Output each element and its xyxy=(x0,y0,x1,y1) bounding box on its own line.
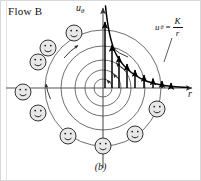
formula-fraction: K r xyxy=(173,17,183,38)
formula-numerator: K xyxy=(173,17,183,27)
particle-marker xyxy=(30,105,46,121)
velocity-formula-annotation: uθ = K r xyxy=(155,17,183,38)
particle-marker xyxy=(40,40,56,56)
particle-marker xyxy=(149,101,165,117)
formula-lhs-symbol: u xyxy=(155,23,160,32)
particle-marker xyxy=(127,126,143,142)
x-axis-label-symbol: r xyxy=(188,88,192,99)
particle-marker xyxy=(15,84,31,100)
particle-marker xyxy=(60,128,76,144)
particle-marker xyxy=(30,54,46,70)
figure-caption: (b) xyxy=(0,162,201,172)
figure-container: Flow B uθ r uθ = K r (b) xyxy=(0,0,201,181)
formula-lhs-subscript: θ xyxy=(161,24,164,30)
page-title: Flow B xyxy=(8,6,43,17)
formula-denominator: r xyxy=(174,28,182,38)
particle-marker xyxy=(66,25,82,41)
x-axis-label: r xyxy=(188,89,192,99)
formula-equals-sign: = xyxy=(165,23,172,32)
y-axis-label: uθ xyxy=(76,3,84,15)
y-axis-label-subscript: θ xyxy=(81,7,84,14)
particle-marker xyxy=(95,138,111,154)
